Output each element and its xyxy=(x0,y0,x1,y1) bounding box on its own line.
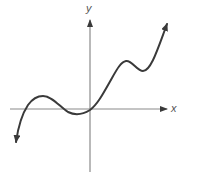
y-axis-label: y xyxy=(86,3,92,14)
function-curve xyxy=(16,24,167,142)
x-axis-label: x xyxy=(171,103,177,114)
function-graph xyxy=(0,0,197,177)
